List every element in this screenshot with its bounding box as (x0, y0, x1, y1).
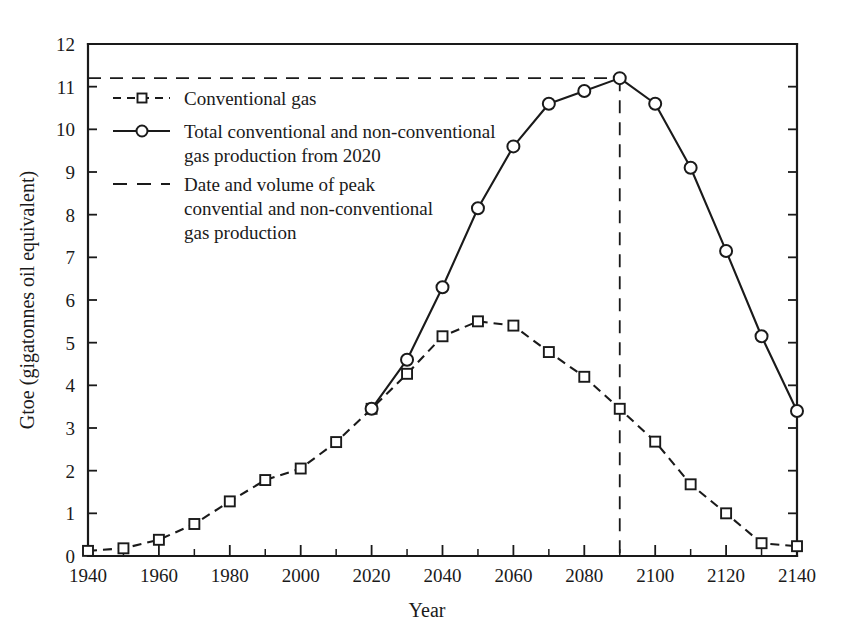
y-tick-label-12: 12 (56, 34, 75, 55)
data-point-conventional-2010 (331, 437, 341, 447)
series-conventional-gas-markers (83, 316, 802, 556)
data-point-conventional-2070 (544, 347, 554, 357)
data-point-total-2110 (685, 162, 697, 174)
x-tick-label-1960: 1960 (140, 565, 178, 586)
x-tick-label-2060: 2060 (494, 565, 532, 586)
data-point-total-2080 (578, 85, 590, 97)
y-tick-label-0: 0 (66, 546, 76, 567)
legend-label-conventional-gas: Conventional gas (184, 88, 316, 109)
y-axis-ticks (88, 44, 97, 556)
y-tick-label-8: 8 (66, 205, 76, 226)
legend-item-peak-marker[interactable]: Date and volume of peak convential and n… (113, 174, 433, 243)
data-point-conventional-2110 (686, 479, 696, 489)
data-point-total-2030 (401, 354, 413, 366)
x-tick-label-2020: 2020 (353, 565, 391, 586)
y-tick-label-4: 4 (66, 375, 76, 396)
data-point-conventional-2040 (438, 331, 448, 341)
x-axis-tick-labels: 1940196019802000202020402060208021002120… (69, 565, 816, 586)
y-tick-label-10: 10 (56, 119, 75, 140)
x-tick-label-2100: 2100 (636, 565, 674, 586)
data-point-conventional-2060 (508, 321, 518, 331)
x-axis-title: Year (409, 599, 446, 621)
data-point-conventional-2100 (650, 437, 660, 447)
y-tick-label-1: 1 (66, 503, 76, 524)
x-tick-label-2140: 2140 (778, 565, 816, 586)
y-tick-label-6: 6 (66, 290, 76, 311)
gas-production-line-chart: 0123456789101112 19401960198020002020204… (0, 0, 855, 640)
data-point-conventional-2140 (792, 541, 802, 551)
legend-label-peak-line1: Date and volume of peak (184, 174, 375, 195)
y-tick-label-7: 7 (66, 247, 76, 268)
y-tick-label-3: 3 (66, 418, 76, 439)
legend-label-peak-line2: convential and non-conventional (184, 198, 433, 219)
x-tick-label-2120: 2120 (707, 565, 745, 586)
y-tick-label-2: 2 (66, 461, 76, 482)
x-tick-label-2000: 2000 (282, 565, 320, 586)
data-point-total-2020 (366, 403, 378, 415)
data-point-total-2090 (614, 72, 626, 84)
y-axis-tick-labels: 0123456789101112 (56, 34, 76, 567)
data-point-total-2130 (756, 330, 768, 342)
legend-label-total-gas-line2: gas production from 2020 (184, 145, 381, 166)
data-point-conventional-2050 (473, 316, 483, 326)
y-tick-label-5: 5 (66, 333, 76, 354)
legend-label-peak-line3: gas production (184, 222, 297, 243)
data-point-total-2120 (720, 245, 732, 257)
data-point-conventional-2080 (579, 372, 589, 382)
chart-figure: 0123456789101112 19401960198020002020204… (0, 0, 855, 640)
x-tick-label-2040: 2040 (424, 565, 462, 586)
data-point-total-2100 (649, 98, 661, 110)
data-point-conventional-1950 (118, 543, 128, 553)
x-tick-label-1980: 1980 (211, 565, 249, 586)
legend-item-total-gas[interactable]: Total conventional and non-conventional … (113, 121, 496, 166)
right-axis-ticks (788, 44, 797, 556)
data-point-conventional-2090 (615, 404, 625, 414)
y-axis-title: Gtoe (gigatonnes oil equivalent) (16, 171, 39, 429)
legend-marker-square-icon (138, 94, 147, 103)
data-point-total-2070 (543, 98, 555, 110)
data-point-conventional-2000 (296, 464, 306, 474)
y-tick-label-11: 11 (57, 77, 75, 98)
data-point-conventional-2130 (757, 538, 767, 548)
data-point-total-2040 (437, 281, 449, 293)
data-point-conventional-1990 (260, 475, 270, 485)
x-axis-ticks (88, 545, 797, 556)
data-point-conventional-1970 (189, 519, 199, 529)
x-tick-label-2080: 2080 (565, 565, 603, 586)
data-point-total-2140 (791, 405, 803, 417)
chart-legend: Conventional gas Total conventional and … (113, 88, 496, 243)
data-point-conventional-2030 (402, 369, 412, 379)
legend-label-total-gas-line1: Total conventional and non-conventional (184, 121, 496, 142)
data-point-conventional-1960 (154, 535, 164, 545)
data-point-conventional-1940 (83, 546, 93, 556)
y-tick-label-9: 9 (66, 162, 76, 183)
data-point-total-2060 (507, 140, 519, 152)
data-point-total-2050 (472, 202, 484, 214)
legend-marker-circle-icon (137, 126, 148, 137)
data-point-conventional-2120 (721, 508, 731, 518)
legend-item-conventional-gas[interactable]: Conventional gas (113, 88, 316, 109)
data-point-conventional-1980 (225, 496, 235, 506)
series-conventional-gas-line (88, 321, 797, 551)
x-tick-label-1940: 1940 (69, 565, 107, 586)
